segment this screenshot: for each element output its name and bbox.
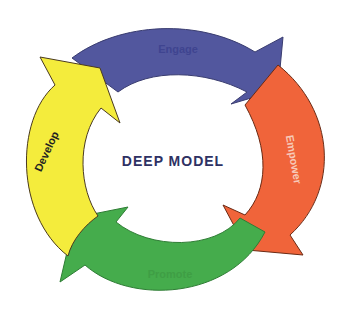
deep-model-cycle-diagram: Engage Empower Promote Develop DEEP MODE…	[0, 0, 345, 318]
diagram-title: DEEP MODEL	[122, 153, 224, 169]
promote-label: Promote	[148, 268, 193, 280]
engage-label: Engage	[158, 43, 198, 55]
